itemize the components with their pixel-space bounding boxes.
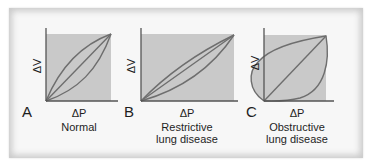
panel-b-caption-line1: Restrictive [156, 121, 218, 133]
panel-a-letter: A [22, 103, 32, 120]
panel-c-graph [251, 28, 334, 101]
panel-c-caption-line2: lung disease [266, 133, 328, 145]
panel-a-caption: Normal [61, 121, 96, 133]
panel-c-y-axis-label: ΔV [249, 56, 261, 71]
panel-c-caption-line1: Obstructive [266, 121, 328, 133]
panel-c-caption: Obstructive lung disease [266, 121, 328, 145]
panel-b-y-axis-label: ΔV [125, 59, 137, 74]
panel-a-caption-line1: Normal [61, 121, 96, 133]
panel-c-letter: C [246, 103, 257, 120]
panel-b-caption: Restrictive lung disease [156, 121, 218, 145]
panel-b-x-axis-label: ΔP [180, 107, 195, 119]
panel-c-x-axis-label: ΔP [290, 107, 305, 119]
panel-a-x-axis-label: ΔP [72, 107, 87, 119]
panel-b-caption-line2: lung disease [156, 133, 218, 145]
panel-a-graph [46, 28, 118, 101]
panel-a-y-axis-label: ΔV [31, 59, 43, 74]
panel-b-graph [141, 28, 238, 101]
panel-b-letter: B [124, 103, 134, 120]
